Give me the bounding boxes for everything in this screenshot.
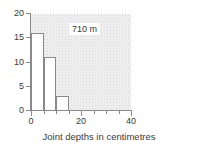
y-tick-10-left bbox=[26, 62, 30, 63]
y-tick-0-left bbox=[26, 110, 30, 111]
y-tick-label-10-left: 10 bbox=[2, 58, 24, 67]
y-tick-label-20-left: 20 bbox=[2, 9, 24, 18]
figure: 20 15 10 5 0 0 20 40 710 m 20 15 bbox=[0, 0, 198, 145]
x-tick-15-left bbox=[69, 111, 70, 114]
x-tick-label-40-left: 40 bbox=[121, 117, 141, 126]
x-axis-title: Joint depths in centimetres bbox=[0, 131, 198, 142]
chart-panel-right: 20 15 10 5 0 0 bbox=[142, 0, 198, 125]
x-tick-label-20-left: 20 bbox=[71, 117, 91, 126]
chart-panel-left: 20 15 10 5 0 0 20 40 710 m bbox=[0, 0, 136, 125]
x-tick-5-left bbox=[44, 111, 45, 114]
x-tick-10-left bbox=[56, 111, 57, 114]
bar-bin-0-5-left bbox=[31, 33, 44, 111]
y-tick-15-left bbox=[26, 37, 30, 38]
x-tick-25-left bbox=[94, 111, 95, 114]
y-tick-label-5-left: 5 bbox=[2, 82, 24, 91]
annotation-depth-label: 710 m bbox=[69, 23, 100, 35]
bar-bin-10-15-left bbox=[56, 96, 69, 111]
x-tick-35-left bbox=[119, 111, 120, 114]
y-tick-label-15-left: 15 bbox=[2, 33, 24, 42]
x-tick-label-0-left: 0 bbox=[21, 117, 41, 126]
bar-bin-5-10-left bbox=[44, 57, 57, 111]
y-tick-label-0-left: 0 bbox=[2, 106, 24, 115]
y-tick-20-left bbox=[26, 13, 30, 14]
x-tick-30-left bbox=[106, 111, 107, 114]
y-tick-5-left bbox=[26, 86, 30, 87]
